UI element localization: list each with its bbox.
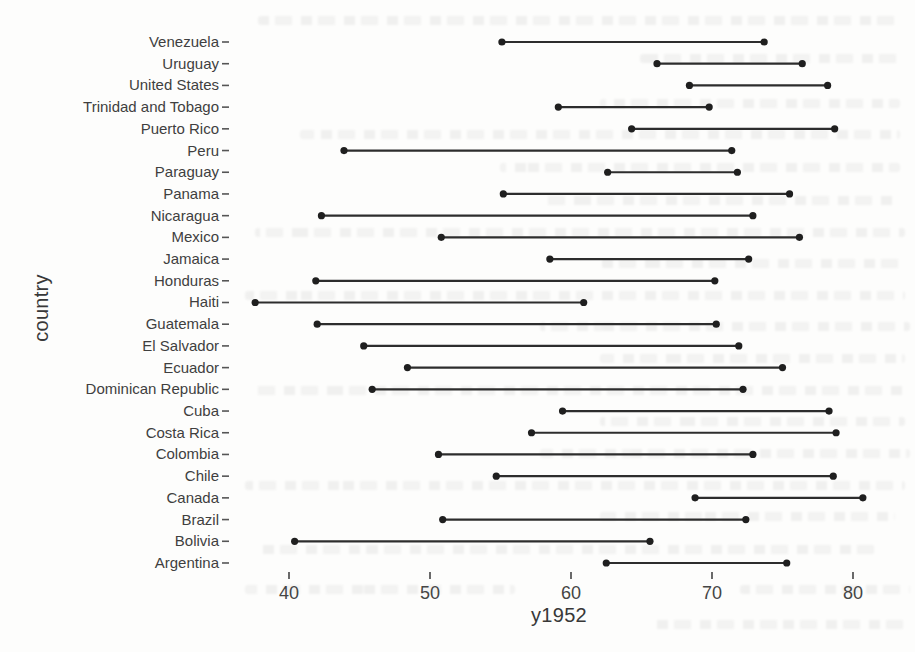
dot-start xyxy=(603,559,610,566)
category-label: Mexico xyxy=(171,228,219,245)
dot-start xyxy=(404,364,411,371)
category-label: Ecuador xyxy=(163,359,219,376)
category-label: Venezuela xyxy=(149,33,220,50)
category-label: El Salvador xyxy=(142,337,219,354)
category-label: Haiti xyxy=(189,293,219,310)
x-axis-title: y1952 xyxy=(531,604,587,627)
x-tick-label: 70 xyxy=(702,583,722,603)
dumbbell-chart: VenezuelaUruguayUnited StatesTrinidad an… xyxy=(0,0,915,652)
category-label: Costa Rica xyxy=(146,424,220,441)
dot-start xyxy=(493,473,500,480)
dot-end xyxy=(831,125,838,132)
dot-end xyxy=(830,473,837,480)
dot-end xyxy=(734,169,741,176)
category-label: Brazil xyxy=(181,511,219,528)
dot-end xyxy=(646,538,653,545)
y-axis-title: country xyxy=(30,274,53,342)
dot-start xyxy=(291,538,298,545)
category-label: Bolivia xyxy=(175,532,220,549)
dot-start xyxy=(628,125,635,132)
dot-start xyxy=(252,299,259,306)
dot-end xyxy=(832,429,839,436)
dot-end xyxy=(580,299,587,306)
category-label: Cuba xyxy=(183,402,220,419)
dot-start xyxy=(438,234,445,241)
dot-end xyxy=(706,104,713,111)
x-tick-label: 40 xyxy=(279,583,299,603)
dot-end xyxy=(859,494,866,501)
category-label: Jamaica xyxy=(163,250,220,267)
dot-end xyxy=(739,386,746,393)
category-label: Peru xyxy=(187,142,219,159)
dot-end xyxy=(786,190,793,197)
dot-start xyxy=(691,494,698,501)
dot-end xyxy=(783,559,790,566)
dot-end xyxy=(824,82,831,89)
category-label: Trinidad and Tobago xyxy=(83,98,219,115)
dot-end xyxy=(749,451,756,458)
dot-end xyxy=(796,234,803,241)
dot-start xyxy=(653,60,660,67)
dot-start xyxy=(360,342,367,349)
category-label: Canada xyxy=(166,489,219,506)
scanned-book-page: VenezuelaUruguayUnited StatesTrinidad an… xyxy=(0,0,915,652)
dot-end xyxy=(825,407,832,414)
dot-end xyxy=(713,321,720,328)
dot-start xyxy=(546,255,553,262)
dot-start xyxy=(498,38,505,45)
x-tick-label: 50 xyxy=(420,583,440,603)
category-label: Chile xyxy=(185,467,219,484)
dot-end xyxy=(749,212,756,219)
dot-start xyxy=(555,104,562,111)
dot-end xyxy=(711,277,718,284)
dot-end xyxy=(728,147,735,154)
dot-end xyxy=(799,60,806,67)
dot-start xyxy=(439,516,446,523)
x-tick-label: 60 xyxy=(561,583,581,603)
category-label: Uruguay xyxy=(162,55,219,72)
category-label: Panama xyxy=(163,185,220,202)
dot-start xyxy=(314,321,321,328)
dot-end xyxy=(761,38,768,45)
dot-end xyxy=(745,255,752,262)
category-label: Colombia xyxy=(156,445,220,462)
dot-start xyxy=(686,82,693,89)
category-label: Paraguay xyxy=(155,163,220,180)
dot-start xyxy=(318,212,325,219)
category-label: Nicaragua xyxy=(151,207,220,224)
category-label: Dominican Republic xyxy=(86,380,220,397)
category-label: Puerto Rico xyxy=(141,120,219,137)
category-label: United States xyxy=(129,76,219,93)
category-label: Argentina xyxy=(155,554,220,571)
dot-start xyxy=(500,190,507,197)
category-label: Guatemala xyxy=(146,315,220,332)
dot-start xyxy=(604,169,611,176)
dot-start xyxy=(559,407,566,414)
x-tick-label: 80 xyxy=(843,583,863,603)
category-label: Honduras xyxy=(154,272,219,289)
dot-start xyxy=(312,277,319,284)
dot-start xyxy=(340,147,347,154)
dot-start xyxy=(369,386,376,393)
dot-end xyxy=(742,516,749,523)
dot-start xyxy=(435,451,442,458)
dot-end xyxy=(779,364,786,371)
dot-end xyxy=(735,342,742,349)
dot-start xyxy=(528,429,535,436)
